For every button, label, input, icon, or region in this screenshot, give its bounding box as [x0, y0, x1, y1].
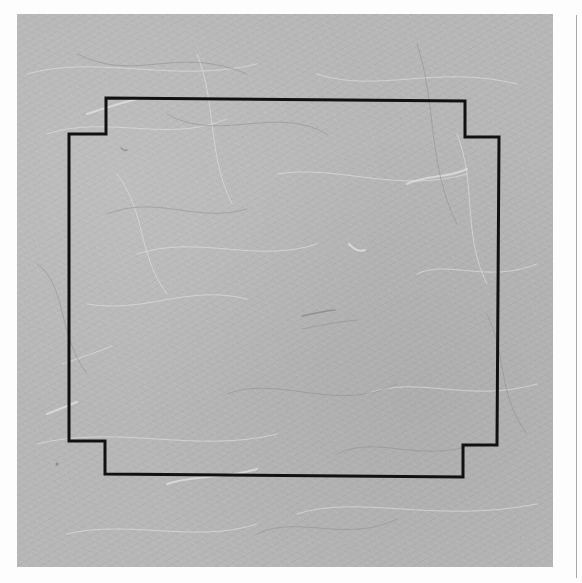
- stepped-corner-outline: [0, 0, 582, 583]
- scan-edge-line: [576, 15, 577, 578]
- stepped-rectangle-border: [69, 98, 499, 477]
- scan-page: [0, 0, 582, 583]
